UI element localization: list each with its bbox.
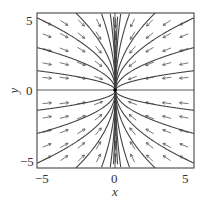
field-arrow (130, 142, 135, 150)
field-arrow (60, 77, 69, 80)
field-arrow (130, 46, 136, 53)
field-arrow (96, 19, 100, 27)
field-arrow (163, 48, 171, 52)
field-arrow (60, 48, 68, 52)
field-arrow (96, 32, 101, 40)
trajectory-curve (37, 48, 115, 91)
field-arrow (162, 102, 171, 105)
field-arrow (180, 34, 188, 38)
trajectory-curve (116, 48, 194, 91)
field-arrow (128, 76, 136, 80)
field-arrow (43, 63, 52, 66)
field-arrow (60, 129, 68, 133)
field-arrow (163, 143, 171, 147)
field-arrow (131, 154, 135, 162)
field-arrow (95, 61, 102, 67)
field-arrow (130, 32, 135, 40)
field-arrow (60, 33, 68, 37)
trajectory-curve (116, 91, 194, 134)
field-arrow (96, 142, 101, 150)
y-tick-0: 0 (26, 84, 33, 97)
field-arrow (60, 143, 68, 147)
field-arrow (146, 143, 153, 149)
field-arrow (77, 47, 85, 52)
field-arrow (95, 114, 102, 120)
field-arrow (94, 101, 102, 105)
field-arrow (130, 128, 136, 135)
field-arrow (162, 77, 171, 80)
field-arrow (180, 143, 188, 147)
field-arrow (163, 20, 170, 25)
y-tick-neg5: −5 (20, 155, 34, 168)
field-arrow (180, 102, 189, 105)
field-arrow (43, 102, 52, 105)
field-arrow (60, 102, 69, 105)
field-arrow (131, 19, 135, 27)
x-tick-neg5: −5 (35, 172, 49, 185)
field-arrow (43, 143, 51, 147)
field-arrow (96, 128, 102, 135)
field-arrow (129, 61, 136, 67)
field-arrow (78, 33, 85, 39)
field-arrow (163, 33, 171, 37)
trajectory-curve (37, 91, 115, 134)
field-arrow (43, 34, 51, 38)
field-arrow (163, 63, 172, 66)
field-arrow (180, 63, 189, 66)
field-arrow (129, 114, 136, 120)
equilibrium-point (113, 88, 117, 92)
field-arrow (77, 129, 85, 134)
field-arrow (163, 156, 170, 161)
x-tick-5: 5 (182, 172, 189, 185)
field-arrow (94, 76, 102, 80)
field-arrow (146, 33, 153, 39)
field-arrow (60, 63, 69, 66)
field-arrow (60, 156, 67, 161)
field-arrow (180, 77, 189, 80)
field-arrow (96, 154, 100, 162)
field-arrow (163, 115, 172, 118)
phase-portrait (0, 0, 205, 200)
field-arrow (78, 143, 85, 149)
field-arrow (128, 101, 136, 105)
y-tick-5: 5 (26, 14, 33, 27)
field-arrow (146, 129, 154, 134)
field-arrow (180, 115, 189, 118)
y-axis-label: y (7, 88, 20, 94)
field-arrow (60, 115, 69, 118)
x-axis-label: x (112, 185, 118, 198)
field-arrow (96, 46, 102, 53)
field-arrow (163, 129, 171, 133)
field-arrow (146, 47, 154, 52)
field-arrow (43, 115, 52, 118)
field-arrow (60, 20, 67, 25)
field-arrow (43, 77, 52, 80)
